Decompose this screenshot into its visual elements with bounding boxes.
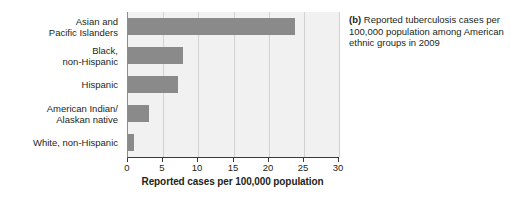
bar [128,47,183,64]
caption-label: (b) [349,14,361,25]
figure-caption: (b) Reported tuberculosis cases per 100,… [349,14,509,49]
gridline-x-30 [339,12,340,157]
x-axis-tick-label: 5 [150,162,174,173]
x-axis-tick-label: 30 [326,162,350,173]
x-axis-tick-label: 15 [221,162,245,173]
bar [128,76,178,93]
x-axis-tick-label: 20 [256,162,280,173]
category-label: White, non-Hispanic [0,137,118,148]
plot-area [127,12,339,158]
x-axis-title: Reported cases per 100,000 population [127,176,338,187]
x-axis-tick-label: 10 [185,162,209,173]
bar [128,18,295,35]
caption-body: Reported tuberculosis cases per 100,000 … [349,14,504,48]
bar [128,134,134,151]
figure-tuberculosis-bar-chart: Asian and Pacific IslandersBlack, non-Hi… [0,0,511,210]
x-axis-tick-label: 25 [291,162,315,173]
category-label: American Indian/ Alaskan native [0,103,118,125]
gridline-x-25 [304,12,305,157]
category-label: Asian and Pacific Islanders [0,16,118,38]
category-label: Hispanic [0,79,118,90]
x-axis-tick-label: 0 [115,162,139,173]
category-label-group: Asian and Pacific IslandersBlack, non-Hi… [0,12,122,157]
category-label: Black, non-Hispanic [0,45,118,67]
bar [128,105,149,122]
